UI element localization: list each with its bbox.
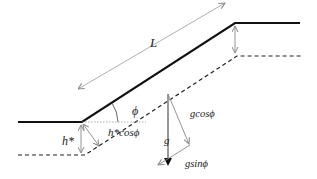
gravity-normal-arrow [168,94,189,144]
gravity-label: g [164,134,170,146]
gravity-tangential-label: gsinϕ [185,158,209,169]
angle-label: ϕ [132,104,138,118]
angle-arc [112,103,118,122]
gravity-normal-label: gcosϕ [190,108,215,119]
slope-diagram: L ϕ h* h*cosϕ g gcosϕ gsinϕ [0,0,317,179]
normal-thickness-arrow [83,124,99,146]
thickness-label: h* [62,134,74,148]
normal-thickness-label: h*cosϕ [108,126,140,138]
length-label: L [149,35,157,50]
